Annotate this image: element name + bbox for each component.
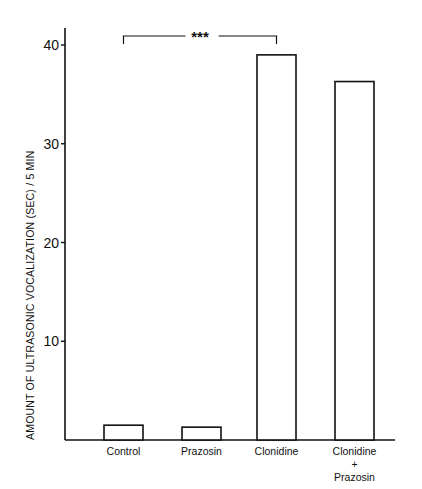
bar xyxy=(257,55,296,440)
y-tick-label: 40 xyxy=(43,37,59,53)
x-tick-label: Clonidine xyxy=(333,445,377,457)
x-tick-label: Prazosin xyxy=(334,471,375,483)
x-tick-label: Prazosin xyxy=(181,445,222,457)
x-tick-label: Control xyxy=(107,445,141,457)
x-tick-label: Clonidine xyxy=(255,445,299,457)
bar xyxy=(335,82,374,440)
y-tick-label: 30 xyxy=(43,136,59,152)
significance-stars: *** xyxy=(191,28,209,45)
y-tick-label: 20 xyxy=(43,235,59,251)
bar-chart: 10203040ControlPrazosinClonidineClonidin… xyxy=(0,0,422,489)
bar xyxy=(182,427,221,440)
x-tick-label: + xyxy=(351,458,357,470)
bar xyxy=(104,425,143,440)
y-tick-label: 10 xyxy=(43,333,59,349)
